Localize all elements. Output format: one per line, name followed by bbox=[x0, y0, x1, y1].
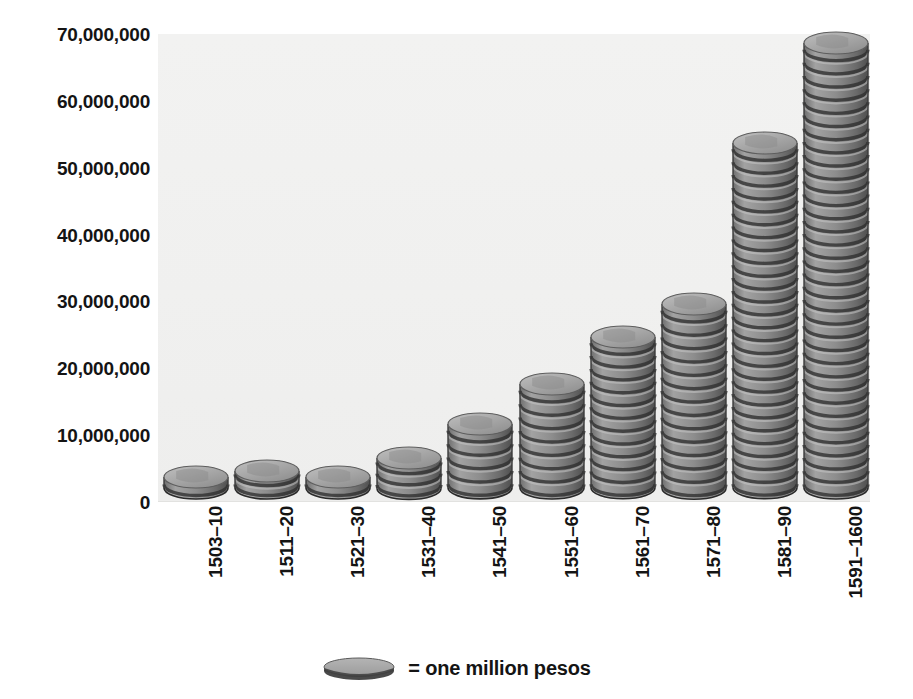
bar-1561-70 bbox=[589, 320, 657, 502]
legend-label: = one million pesos bbox=[408, 657, 590, 680]
x-axis-labels: 1503–101511–201521–301531–401541–501551–… bbox=[158, 506, 870, 636]
bar-1511-20 bbox=[233, 454, 301, 502]
bar-1521-30 bbox=[304, 460, 372, 502]
x-tick-label: 1581–90 bbox=[774, 506, 796, 578]
y-tick-label: 50,000,000 bbox=[0, 158, 150, 177]
bar-1541-50 bbox=[446, 407, 514, 502]
bar-1551-60 bbox=[518, 367, 586, 502]
x-tick-label: 1541–50 bbox=[489, 506, 511, 578]
coin-stack-bar-chart: 010,000,00020,000,00030,000,00040,000,00… bbox=[0, 0, 913, 699]
y-tick-label: 70,000,000 bbox=[0, 25, 150, 44]
bar-1531-40 bbox=[375, 441, 443, 502]
coin-icon bbox=[322, 655, 396, 681]
y-axis: 010,000,00020,000,00030,000,00040,000,00… bbox=[0, 0, 150, 699]
y-tick-label: 20,000,000 bbox=[0, 359, 150, 378]
y-tick-label: 60,000,000 bbox=[0, 91, 150, 110]
chart-legend: = one million pesos bbox=[0, 648, 913, 688]
y-tick-label: 40,000,000 bbox=[0, 225, 150, 244]
x-tick-label: 1571–80 bbox=[703, 506, 725, 578]
x-tick-label: 1521–30 bbox=[347, 506, 369, 578]
y-tick-label: 10,000,000 bbox=[0, 426, 150, 445]
x-tick-label: 1591–1600 bbox=[845, 506, 867, 598]
bars-layer bbox=[158, 34, 870, 502]
x-tick-label: 1551–60 bbox=[561, 506, 583, 578]
x-tick-label: 1511–20 bbox=[276, 506, 298, 577]
bar-1581-90 bbox=[731, 126, 799, 502]
bar-1571-80 bbox=[660, 287, 728, 502]
y-tick-label: 30,000,000 bbox=[0, 292, 150, 311]
bar-1503-10 bbox=[162, 460, 230, 502]
x-tick-label: 1531–40 bbox=[418, 506, 440, 578]
y-tick-label: 0 bbox=[0, 493, 150, 512]
x-tick-label: 1561–70 bbox=[632, 506, 654, 578]
bar-1591-1600 bbox=[802, 26, 870, 502]
x-tick-label: 1503–10 bbox=[205, 506, 227, 578]
